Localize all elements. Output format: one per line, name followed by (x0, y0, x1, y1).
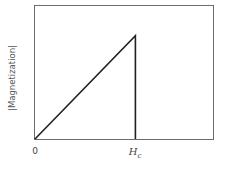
x-tick-hc-sub: c (137, 152, 141, 160)
y-axis-label: |Magnetization| (7, 45, 17, 111)
x-tick-hc: Hc (129, 146, 142, 160)
x-tick-hc-main: H (129, 146, 138, 157)
plot-frame (35, 6, 214, 140)
magnetization-curve (35, 36, 135, 139)
x-tick-zero: 0 (32, 146, 38, 156)
